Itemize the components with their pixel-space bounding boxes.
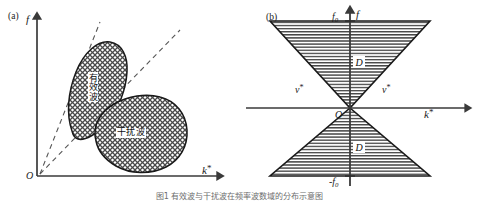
panel-b-tag: (b) bbox=[266, 13, 277, 23]
panel-b-plot bbox=[234, 0, 479, 192]
panel-a-x-axis-label: k* bbox=[202, 164, 211, 176]
label-interference-wave: 干扰波 bbox=[116, 128, 146, 138]
panel-a-plot bbox=[0, 0, 234, 192]
panel-a-x-axis-star: * bbox=[207, 163, 212, 173]
region-label-lower-d: D bbox=[353, 141, 365, 153]
panel-a: (a) f k* O 有效波 干扰波 bbox=[0, 0, 234, 204]
tick-label-f0-top: f0 bbox=[332, 12, 338, 24]
velocity-label-left-star: * bbox=[299, 83, 303, 92]
tick-label-f0-bottom: -f0 bbox=[329, 177, 339, 189]
panel-a-origin-label: O bbox=[26, 171, 33, 181]
region-label-upper-d: D bbox=[353, 56, 365, 68]
panel-b-origin-label: O bbox=[335, 110, 342, 120]
panel-a-tag: (a) bbox=[8, 12, 19, 22]
tick-label-f0-bottom-sub: 0 bbox=[335, 181, 338, 188]
velocity-label-right: v* bbox=[382, 84, 391, 95]
figure-container: (a) f k* O 有效波 干扰波 bbox=[0, 0, 479, 204]
panel-b-y-axis-label: f bbox=[356, 9, 359, 20]
panel-a-y-axis-label: f bbox=[26, 14, 29, 25]
tick-label-f0-top-sub: 0 bbox=[335, 16, 338, 23]
velocity-label-left: v* bbox=[295, 84, 304, 95]
panel-b: (b) f f0 -f0 k* O v* v* D D bbox=[234, 0, 479, 204]
figure-caption: 图1 有效波与干扰波在频率波数域的分布示意图 bbox=[0, 192, 479, 204]
label-effective-wave: 有效波 bbox=[88, 72, 98, 102]
panel-b-x-axis-star: * bbox=[429, 107, 434, 117]
velocity-label-right-star: * bbox=[386, 83, 390, 92]
panel-b-x-axis-label: k* bbox=[424, 108, 433, 120]
